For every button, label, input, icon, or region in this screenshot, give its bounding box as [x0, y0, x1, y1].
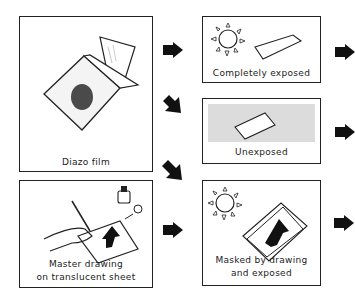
master-drawing-label-1: Master drawing [20, 259, 152, 270]
diazo-film-label: Diazo film [20, 157, 152, 168]
arrow-right-icon [335, 44, 355, 60]
film-envelope-icon [20, 17, 154, 173]
diazo-film-box: Diazo film [19, 16, 153, 172]
completely-exposed-box: Completely exposed [202, 16, 321, 83]
arrow-right-icon [163, 222, 183, 238]
arrow-right-icon [163, 42, 183, 58]
completely-exposed-label: Completely exposed [203, 68, 320, 79]
arrow-right-icon [335, 124, 355, 140]
unexposed-box: Unexposed [202, 98, 321, 164]
arrow-right-icon [334, 215, 354, 231]
masked-exposed-box: Masked by drawing and exposed [202, 180, 321, 286]
master-drawing-box: Master drawing on translucent sheet [19, 180, 153, 288]
master-drawing-label-2: on translucent sheet [20, 272, 152, 283]
unexposed-label: Unexposed [203, 147, 320, 158]
masked-label-2: and exposed [203, 268, 320, 279]
masked-label-1: Masked by drawing [203, 255, 320, 266]
arrow-diagonal-down-icon [162, 160, 184, 182]
arrow-down-right-icon [163, 95, 183, 115]
